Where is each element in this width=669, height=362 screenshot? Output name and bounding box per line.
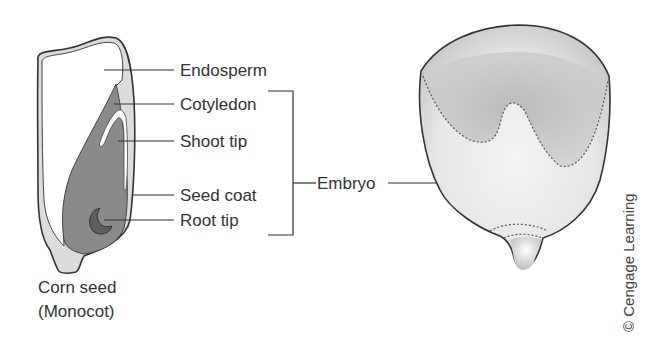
copyright-notice: © Cengage Learning [620,193,637,332]
label-root-tip: Root tip [180,211,239,230]
label-cotyledon: Cotyledon [180,95,257,114]
embryo-bracket [268,91,293,235]
caption-line-1: Corn seed [38,278,116,297]
caption-line-2: (Monocot) [38,302,115,321]
corn-seed-section [38,37,135,273]
corn-seed-diagram: Endosperm Cotyledon Shoot tip Seed coat … [0,0,669,362]
label-endosperm: Endosperm [180,61,267,80]
label-embryo: Embryo [317,174,376,193]
label-seed-coat: Seed coat [180,186,257,205]
label-shoot-tip: Shoot tip [180,132,247,151]
corn-kernel-exterior [420,25,610,270]
